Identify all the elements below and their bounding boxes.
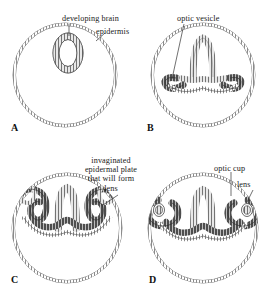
label-invaginated-line-4: lens: [68, 184, 154, 193]
panel-letter-c: C: [11, 274, 18, 285]
label-developing-brain: developing brain: [62, 14, 119, 23]
panel-a-artwork: [13, 23, 117, 127]
label-invaginated-line-2: epidermal plate: [68, 165, 154, 174]
label-invaginated-line-3: that will form: [68, 174, 154, 183]
panel-letter-d: D: [149, 274, 156, 285]
label-epidermis: epidermis: [96, 27, 129, 36]
label-lens: lens: [237, 180, 251, 189]
panel-b-artwork: [151, 23, 255, 127]
panel-letter-b: B: [147, 122, 154, 133]
label-optic-cup: optic cup: [214, 164, 245, 173]
figure-artwork: [0, 0, 270, 300]
label-invaginated-line-1: invaginated: [68, 156, 154, 165]
eye-development-figure: developing brain epidermis optic vesicle…: [0, 0, 270, 300]
label-optic-vesicle: optic vesicle: [177, 14, 219, 23]
label-invaginated-epidermal-plate: invaginated epidermal plate that will fo…: [68, 156, 154, 193]
panel-letter-a: A: [11, 122, 18, 133]
